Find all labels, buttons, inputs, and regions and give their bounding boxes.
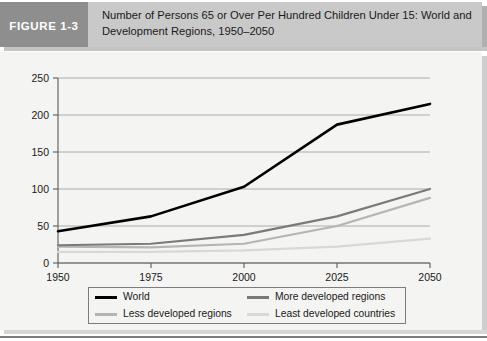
x-axis-tick-labels: 19501975200020252050 [46, 271, 442, 283]
legend-label-less-developed-regions: Less developed regions [123, 309, 232, 319]
panel-drop-shadow-right [482, 56, 487, 334]
legend-label-world: World [123, 292, 150, 302]
legend-swatch-world [95, 296, 117, 299]
data-series-group [58, 104, 430, 252]
x-tick-label: 1950 [46, 271, 70, 283]
y-tick-label: 250 [31, 72, 49, 84]
figure-title: Number of Persons 65 or Over Per Hundred… [88, 2, 486, 47]
x-tick-label: 2025 [325, 271, 349, 283]
tickmarks-group [53, 78, 430, 268]
y-tick-label: 50 [37, 220, 49, 232]
figure-header-bar: FIGURE 1-3 Number of Persons 65 or Over … [0, 2, 482, 47]
x-tick-label: 1975 [139, 271, 163, 283]
legend-label-least-developed-countries: Least developed countries [275, 309, 395, 319]
header-drop-shadow-right [482, 6, 487, 51]
legend-swatch-less-developed-regions [95, 313, 117, 316]
x-tick-label: 2050 [418, 271, 442, 283]
y-tick-label: 100 [31, 183, 49, 195]
x-tick-label: 2000 [232, 271, 256, 283]
y-tick-label: 200 [31, 109, 49, 121]
legend-item-less-developed-regions: Less developed regions [95, 309, 247, 319]
footer-rule [0, 336, 487, 338]
series-line-more-developed-regions [58, 189, 430, 245]
figure-title-line-1: Number of Persons 65 or Over Per Hundred… [102, 8, 472, 24]
chart-legend: World More developed regions Less develo… [88, 287, 406, 324]
legend-item-more-developed-regions: More developed regions [247, 292, 413, 302]
figure-title-line-2: Development Regions, 1950–2050 [102, 24, 472, 40]
y-tick-label: 150 [31, 146, 49, 158]
header-drop-shadow-bottom [4, 47, 487, 51]
legend-item-world: World [95, 292, 247, 302]
legend-swatch-more-developed-regions [247, 296, 269, 299]
legend-swatch-least-developed-countries [247, 313, 269, 316]
panel-drop-shadow-bottom [4, 330, 487, 334]
legend-label-more-developed-regions: More developed regions [275, 292, 385, 302]
y-axis-tick-labels: 050100150200250 [31, 72, 49, 269]
series-line-world [58, 104, 430, 231]
legend-item-least-developed-countries: Least developed countries [247, 309, 413, 319]
y-tick-label: 0 [43, 257, 49, 269]
figure-number-badge: FIGURE 1-3 [0, 2, 88, 47]
